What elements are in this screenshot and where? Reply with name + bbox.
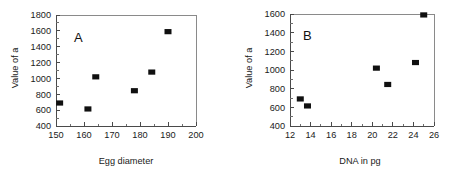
y-tick-label: 1800 xyxy=(31,10,51,20)
x-tick-label: 190 xyxy=(160,130,175,140)
panel-b-letter: B xyxy=(303,28,312,43)
panel-b-data-points xyxy=(297,12,427,108)
data-point xyxy=(297,96,304,101)
panel-b: 1214161820222426160014001200100080060040… xyxy=(238,0,475,169)
data-point xyxy=(304,103,311,108)
panel-a-letter: A xyxy=(74,30,83,45)
x-tick-label: 24 xyxy=(408,130,418,140)
y-tick-label: 1000 xyxy=(31,74,51,84)
x-tick-label: 18 xyxy=(347,130,357,140)
y-tick-label: 800 xyxy=(36,90,51,100)
y-tick-label: 800 xyxy=(270,84,285,94)
data-point xyxy=(420,12,427,17)
x-tick-label: 16 xyxy=(326,130,336,140)
data-point xyxy=(84,106,91,111)
panel-b-tick-labels: 1214161820222426160014001200100080060040… xyxy=(265,9,440,140)
x-tick-label: 22 xyxy=(388,130,398,140)
data-point xyxy=(131,88,138,93)
data-point xyxy=(412,60,419,65)
panel-a-plot: 1501601701801902001800160014001200100080… xyxy=(0,0,237,169)
data-point xyxy=(384,82,391,87)
x-tick-label: 170 xyxy=(104,130,119,140)
panel-a-xaxis-title: Egg diameter xyxy=(99,156,154,166)
figure-container: 1501601701801902001800160014001200100080… xyxy=(0,0,475,169)
data-point xyxy=(373,66,380,71)
y-tick-label: 1600 xyxy=(31,26,51,36)
y-tick-label: 1400 xyxy=(265,28,285,38)
y-tick-label: 1400 xyxy=(31,42,51,52)
x-tick-label: 14 xyxy=(305,130,315,140)
x-tick-label: 20 xyxy=(367,130,377,140)
x-tick-label: 160 xyxy=(76,130,91,140)
panel-b-yaxis-title: Value of a xyxy=(244,47,254,89)
x-tick-label: 200 xyxy=(188,130,203,140)
data-point xyxy=(56,100,63,105)
y-tick-label: 1200 xyxy=(31,58,51,68)
panel-b-plot: 1214161820222426160014001200100080060040… xyxy=(238,0,475,169)
y-tick-label: 400 xyxy=(36,121,51,131)
data-point xyxy=(92,74,99,79)
x-tick-label: 150 xyxy=(48,130,63,140)
data-point xyxy=(165,29,172,34)
y-tick-label: 600 xyxy=(36,105,51,115)
y-tick-label: 1200 xyxy=(265,47,285,57)
panel-a-tick-labels: 1501601701801902001800160014001200100080… xyxy=(31,10,204,140)
x-tick-label: 26 xyxy=(429,130,439,140)
x-tick-label: 12 xyxy=(285,130,295,140)
panel-a-yaxis-title: Value of a xyxy=(10,47,20,89)
data-point xyxy=(148,69,155,74)
panel-b-xaxis-title: DNA in pg xyxy=(339,156,380,166)
y-tick-label: 600 xyxy=(270,103,285,113)
y-tick-label: 1600 xyxy=(265,9,285,19)
x-tick-label: 180 xyxy=(132,130,147,140)
y-tick-label: 1000 xyxy=(265,65,285,75)
y-tick-label: 400 xyxy=(270,121,285,131)
panel-a: 1501601701801902001800160014001200100080… xyxy=(0,0,237,169)
